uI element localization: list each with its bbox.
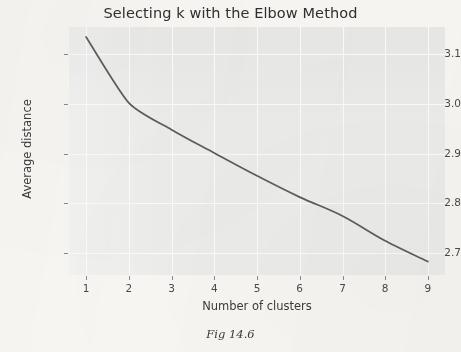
x-tick-mark	[257, 276, 258, 280]
x-tick-label: 4	[202, 282, 226, 294]
x-tick-label: 3	[160, 282, 184, 294]
x-tick-mark	[428, 276, 429, 280]
figure-caption: Fig 14.6	[0, 327, 461, 341]
x-tick-label: 5	[245, 282, 269, 294]
x-tick-label: 9	[416, 282, 440, 294]
elbow-method-figure: Selecting k with the Elbow Method 2.72.8…	[0, 0, 461, 352]
y-axis-title: Average distance	[20, 59, 34, 239]
y-tick-mark	[64, 104, 68, 105]
x-tick-label: 7	[331, 282, 355, 294]
x-tick-mark	[86, 276, 87, 280]
x-tick-mark	[300, 276, 301, 280]
x-tick-label: 1	[74, 282, 98, 294]
y-tick-label: 3.1	[417, 47, 461, 59]
x-tick-mark	[385, 276, 386, 280]
y-tick-label: 2.9	[417, 147, 461, 159]
x-tick-label: 8	[373, 282, 397, 294]
x-tick-mark	[172, 276, 173, 280]
y-tick-mark	[64, 203, 68, 204]
y-tick-label: 2.7	[417, 246, 461, 258]
plot-panel	[69, 27, 445, 275]
x-tick-mark	[214, 276, 215, 280]
y-tick-mark	[64, 253, 68, 254]
y-tick-label: 3.0	[417, 97, 461, 109]
y-tick-label: 2.8	[417, 196, 461, 208]
x-tick-label: 2	[117, 282, 141, 294]
chart-title: Selecting k with the Elbow Method	[0, 5, 461, 21]
average-distance-line	[86, 37, 428, 262]
elbow-curve	[69, 27, 445, 275]
x-tick-mark	[343, 276, 344, 280]
y-tick-mark	[64, 54, 68, 55]
y-tick-mark	[64, 154, 68, 155]
x-tick-label: 6	[288, 282, 312, 294]
x-axis-title: Number of clusters	[69, 299, 445, 313]
x-tick-mark	[129, 276, 130, 280]
